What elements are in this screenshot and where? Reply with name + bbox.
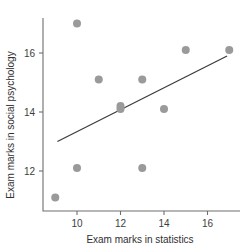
x-axis-ticks: 10121416 bbox=[71, 211, 213, 229]
y-axis-ticks: 121416 bbox=[24, 48, 43, 177]
plot-area: 10121416 121416 Exam marks in statistics… bbox=[0, 0, 244, 249]
x-tick-label: 14 bbox=[158, 218, 170, 229]
data-point bbox=[73, 20, 81, 28]
data-point bbox=[95, 76, 103, 84]
data-point bbox=[117, 102, 125, 110]
data-point bbox=[138, 164, 146, 172]
x-tick-label: 10 bbox=[71, 218, 83, 229]
y-axis-label: Exam marks in social psychology bbox=[5, 51, 16, 198]
x-axis-label: Exam marks in statistics bbox=[86, 234, 193, 245]
y-tick-label: 12 bbox=[24, 166, 36, 177]
scatter-chart: 10121416 121416 Exam marks in statistics… bbox=[0, 0, 244, 249]
data-point bbox=[73, 164, 81, 172]
axis-lines bbox=[43, 18, 240, 211]
trend-line bbox=[57, 56, 227, 142]
x-tick-label: 12 bbox=[115, 218, 127, 229]
y-tick-label: 16 bbox=[24, 48, 36, 59]
data-point bbox=[138, 76, 146, 84]
axes bbox=[43, 18, 240, 211]
y-tick-label: 14 bbox=[24, 107, 36, 118]
data-point bbox=[182, 46, 190, 54]
regression-line bbox=[57, 56, 227, 142]
data-point bbox=[160, 105, 168, 113]
x-tick-label: 16 bbox=[202, 218, 214, 229]
data-point bbox=[225, 46, 233, 54]
data-point bbox=[51, 194, 59, 202]
data-points bbox=[51, 20, 233, 202]
